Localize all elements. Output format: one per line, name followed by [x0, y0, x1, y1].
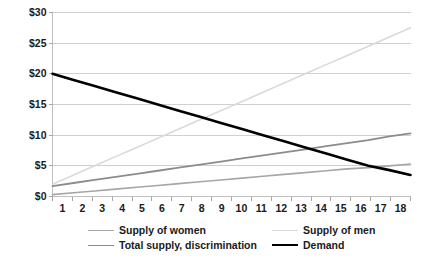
y-axis-label: $10 — [7, 130, 47, 141]
x-axis-label: 2 — [73, 203, 91, 214]
line-chart: $0$5$10$15$20$25$30 12345678910111213141… — [0, 0, 425, 265]
x-axis-label: 4 — [113, 203, 131, 214]
legend-label: Supply of men — [303, 225, 375, 236]
legend-color-swatch — [88, 245, 114, 246]
x-axis-label: 17 — [372, 203, 390, 214]
x-axis-label: 9 — [213, 203, 231, 214]
legend-color-swatch — [272, 244, 298, 246]
legend-label: Total supply, discrimination — [119, 240, 257, 251]
legend-item[interactable]: Supply of men — [272, 225, 375, 236]
legend-item[interactable]: Total supply, discrimination — [88, 240, 257, 251]
y-axis-label: $0 — [7, 191, 47, 202]
y-axis-label: $15 — [7, 99, 47, 110]
x-axis-label: 15 — [332, 203, 350, 214]
x-axis-label: 6 — [153, 203, 171, 214]
y-axis-label: $20 — [7, 68, 47, 79]
x-axis-label: 7 — [173, 203, 191, 214]
x-axis-label: 16 — [352, 203, 370, 214]
y-axis-label: $25 — [7, 38, 47, 49]
legend-color-swatch — [272, 230, 298, 231]
x-axis-label: 1 — [53, 203, 71, 214]
x-axis-label: 5 — [133, 203, 151, 214]
x-axis-label: 8 — [193, 203, 211, 214]
x-axis-label: 10 — [232, 203, 250, 214]
x-axis-label: 3 — [93, 203, 111, 214]
legend-label: Demand — [303, 240, 344, 251]
x-axis-label: 11 — [252, 203, 270, 214]
x-axis-label: 13 — [292, 203, 310, 214]
legend-color-swatch — [88, 230, 114, 231]
legend-item[interactable]: Supply of women — [88, 225, 206, 236]
x-axis-label: 14 — [312, 203, 330, 214]
legend-item[interactable]: Demand — [272, 240, 344, 251]
y-axis-label: $5 — [7, 160, 47, 171]
x-axis-label: 12 — [272, 203, 290, 214]
y-axis-label: $30 — [7, 7, 47, 18]
x-axis-label: 18 — [392, 203, 410, 214]
legend-label: Supply of women — [119, 225, 206, 236]
